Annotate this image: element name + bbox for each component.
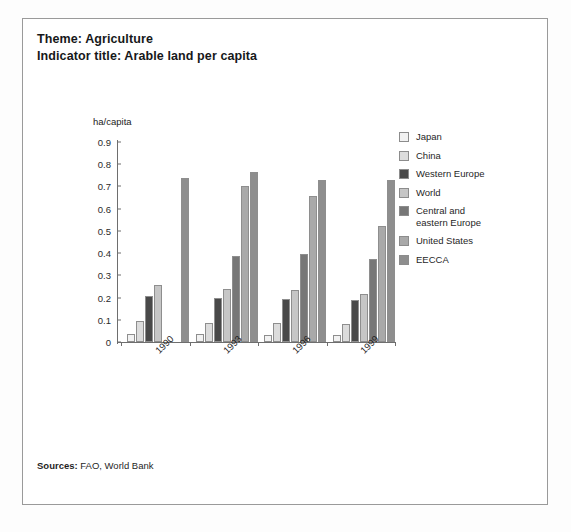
bar (282, 299, 290, 342)
bar (214, 298, 222, 342)
legend-swatch-icon (399, 132, 409, 142)
y-axis-tick-mark (117, 164, 121, 165)
bar-group (264, 142, 327, 342)
legend-swatch-icon (399, 188, 409, 198)
bar (196, 334, 204, 342)
bar (264, 335, 272, 342)
bar (241, 186, 249, 342)
x-axis-tick-mark (327, 342, 328, 346)
y-axis-tick-label: 0.2 (98, 292, 111, 303)
y-axis-tick-mark (117, 319, 121, 320)
bar (232, 256, 240, 342)
y-axis-tick-mark (117, 230, 121, 231)
bar (223, 289, 231, 342)
y-axis-tick-mark (117, 208, 121, 209)
legend-item-label: Central and eastern Europe (416, 205, 481, 228)
y-axis-tick-label: 0.4 (98, 248, 111, 259)
x-axis-tick-mark (121, 342, 122, 346)
y-axis-tick-label: 0.6 (98, 203, 111, 214)
y-axis-tick-label: 0.7 (98, 181, 111, 192)
legend-item[interactable]: Japan (399, 131, 539, 143)
legend-item[interactable]: Central and eastern Europe (399, 205, 539, 228)
legend-swatch-icon (399, 169, 409, 179)
bar (250, 172, 258, 342)
y-axis-title: ha/capita (93, 116, 132, 127)
bar (181, 178, 189, 342)
y-axis-tick-mark (117, 186, 121, 187)
legend-item[interactable]: China (399, 150, 539, 162)
bar (378, 226, 386, 342)
bar (300, 254, 308, 342)
bar (342, 324, 350, 342)
plot-area: 00.10.20.30.40.50.60.70.80.9199019931996… (117, 142, 391, 342)
bar (127, 334, 135, 342)
bar (291, 290, 299, 342)
sources-label: Sources: (37, 460, 78, 471)
bar (136, 321, 144, 342)
y-axis-tick-label: 0.5 (98, 225, 111, 236)
legend-swatch-icon (399, 255, 409, 265)
y-axis-tick-mark (117, 142, 121, 143)
chart-frame: Theme: Agriculture Indicator title: Arab… (22, 18, 548, 505)
bar (351, 300, 359, 342)
page-canvas: Theme: Agriculture Indicator title: Arab… (0, 0, 571, 532)
bar (318, 180, 326, 342)
y-axis-tick-label: 0.9 (98, 137, 111, 148)
legend-item[interactable]: United States (399, 235, 539, 247)
y-axis-tick-label: 0 (106, 337, 111, 348)
bar (387, 180, 395, 342)
legend-swatch-icon (399, 151, 409, 161)
legend-item[interactable]: EECCA (399, 254, 539, 266)
legend-item-label: Western Europe (416, 168, 484, 180)
legend-item-label: China (416, 150, 441, 162)
legend-item-label: Japan (416, 131, 442, 143)
bar (333, 335, 341, 342)
sources-value: FAO, World Bank (78, 460, 154, 471)
x-axis-tick-mark (395, 342, 396, 346)
bar (145, 296, 153, 342)
legend-swatch-icon (399, 206, 409, 216)
legend-item[interactable]: Western Europe (399, 168, 539, 180)
legend-item-label: United States (416, 235, 473, 247)
x-axis-tick-mark (258, 342, 259, 346)
legend-swatch-icon (399, 236, 409, 246)
bar (154, 285, 162, 342)
legend-item-label: EECCA (416, 254, 449, 266)
sources-note: Sources: FAO, World Bank (37, 460, 154, 471)
bar-group (333, 142, 396, 342)
bar (369, 259, 377, 342)
bar (360, 294, 368, 342)
bar (273, 323, 281, 342)
bar (205, 323, 213, 342)
legend-item[interactable]: World (399, 187, 539, 199)
legend-item-label: World (416, 187, 441, 199)
x-axis-tick-mark (190, 342, 191, 346)
bar-group (127, 142, 190, 342)
y-axis-tick-label: 0.8 (98, 159, 111, 170)
bar (309, 196, 317, 342)
y-axis-tick-label: 0.1 (98, 314, 111, 325)
y-axis-tick-mark (117, 253, 121, 254)
bar-group (196, 142, 259, 342)
y-axis-tick-mark (117, 297, 121, 298)
y-axis-tick-label: 0.3 (98, 270, 111, 281)
y-axis-tick-mark (117, 275, 121, 276)
chart-legend: JapanChinaWestern EuropeWorldCentral and… (399, 131, 539, 272)
